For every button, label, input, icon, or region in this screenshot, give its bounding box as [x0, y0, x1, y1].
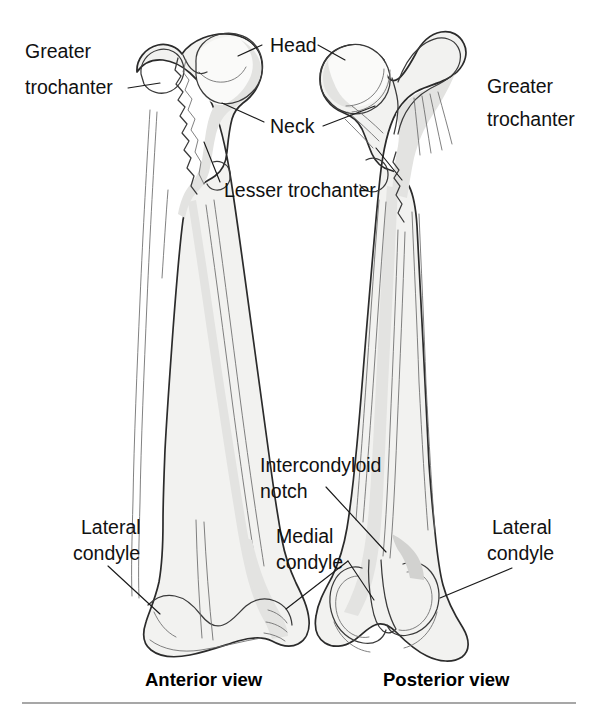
label-greater-trochanter-right-line1: Greater	[487, 75, 554, 97]
label-greater-trochanter-right-line2: trochanter	[487, 108, 575, 130]
femur-diagram-svg: Greater trochanter Head Neck Lesser troc…	[0, 0, 595, 717]
label-lesser-trochanter: Lesser trochanter	[224, 179, 376, 201]
label-intercondyloid-notch-line1: Intercondyloid	[260, 454, 381, 476]
label-greater-trochanter-left-line1: Greater	[25, 40, 92, 62]
label-neck: Neck	[270, 115, 315, 137]
label-intercondyloid-notch-line2: notch	[260, 480, 308, 502]
label-posterior-view: Posterior view	[383, 669, 510, 690]
label-greater-trochanter-left-line2: trochanter	[25, 76, 113, 98]
label-medial-condyle-line2: condyle	[276, 551, 343, 573]
label-lateral-condyle-left-line2: condyle	[73, 542, 140, 564]
label-head: Head	[270, 34, 317, 56]
label-lateral-condyle-right-line2: condyle	[487, 542, 554, 564]
label-medial-condyle-line1: Medial	[276, 525, 333, 547]
label-anterior-view: Anterior view	[145, 669, 263, 690]
femur-anatomy-figure: Greater trochanter Head Neck Lesser troc…	[0, 0, 595, 717]
label-lateral-condyle-right-line1: Lateral	[492, 516, 552, 538]
label-lateral-condyle-left-line1: Lateral	[81, 516, 141, 538]
